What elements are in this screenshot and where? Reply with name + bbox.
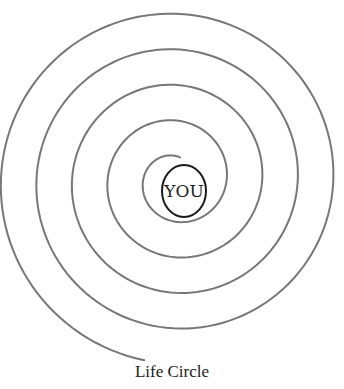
caption: Life Circle (0, 362, 344, 382)
life-circle-diagram: YOU (0, 0, 344, 389)
center-label: YOU (163, 181, 204, 201)
